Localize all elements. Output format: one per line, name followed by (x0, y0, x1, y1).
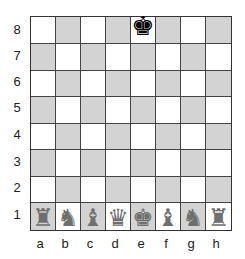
square-f1[interactable]: ♝ (156, 203, 181, 230)
square-b8[interactable] (56, 17, 81, 44)
black-king-icon[interactable]: ♚ (131, 13, 154, 39)
square-f4[interactable] (156, 124, 181, 151)
file-label-b: b (58, 236, 72, 251)
file-label-d: d (108, 236, 122, 251)
square-f5[interactable] (156, 97, 181, 124)
white-queen-icon[interactable]: ♛ (107, 206, 129, 230)
square-a6[interactable] (31, 71, 56, 98)
white-bishop-icon[interactable]: ♝ (157, 206, 179, 230)
file-label-c: c (83, 236, 97, 251)
square-c8[interactable] (81, 17, 106, 44)
square-d2[interactable] (106, 177, 131, 204)
square-g8[interactable] (181, 17, 206, 44)
square-d6[interactable] (106, 71, 131, 98)
square-g2[interactable] (181, 177, 206, 204)
square-h5[interactable] (206, 97, 231, 124)
rank-label-6: 6 (10, 74, 24, 89)
square-e6[interactable] (131, 71, 156, 98)
square-h3[interactable] (206, 150, 231, 177)
square-h8[interactable] (206, 17, 231, 44)
square-f7[interactable] (156, 44, 181, 71)
square-e4[interactable] (131, 124, 156, 151)
square-c3[interactable] (81, 150, 106, 177)
square-h7[interactable] (206, 44, 231, 71)
square-d8[interactable] (106, 17, 131, 44)
white-rook-icon[interactable]: ♜ (32, 206, 54, 230)
square-h1[interactable]: ♜ (206, 203, 231, 230)
square-f3[interactable] (156, 150, 181, 177)
square-d4[interactable] (106, 124, 131, 151)
square-b7[interactable] (56, 44, 81, 71)
rank-label-1: 1 (10, 207, 24, 222)
file-label-h: h (209, 236, 223, 251)
square-b4[interactable] (56, 124, 81, 151)
square-g6[interactable] (181, 71, 206, 98)
square-c7[interactable] (81, 44, 106, 71)
square-a1[interactable]: ♜ (31, 203, 56, 230)
white-king-icon[interactable]: ♚ (132, 206, 154, 230)
square-e8[interactable]: ♚ (131, 17, 156, 44)
square-d7[interactable] (106, 44, 131, 71)
square-e1[interactable]: ♚ (131, 203, 156, 230)
square-h2[interactable] (206, 177, 231, 204)
rank-label-4: 4 (10, 127, 24, 142)
square-a7[interactable] (31, 44, 56, 71)
rank-label-3: 3 (10, 154, 24, 169)
square-g3[interactable] (181, 150, 206, 177)
white-rook-icon[interactable]: ♜ (208, 206, 230, 230)
rank-label-2: 2 (10, 180, 24, 195)
square-b6[interactable] (56, 71, 81, 98)
square-e3[interactable] (131, 150, 156, 177)
square-b1[interactable]: ♞ (56, 203, 81, 230)
square-g5[interactable] (181, 97, 206, 124)
square-h4[interactable] (206, 124, 231, 151)
white-knight-icon[interactable]: ♞ (182, 206, 204, 230)
chess-board: ♚♜♞♝♛♚♝♞♜ (30, 16, 232, 231)
square-e5[interactable] (131, 97, 156, 124)
rank-label-7: 7 (10, 48, 24, 63)
file-label-a: a (33, 236, 47, 251)
square-d3[interactable] (106, 150, 131, 177)
square-c1[interactable]: ♝ (81, 203, 106, 230)
file-label-g: g (184, 236, 198, 251)
square-c5[interactable] (81, 97, 106, 124)
square-b5[interactable] (56, 97, 81, 124)
square-e2[interactable] (131, 177, 156, 204)
square-a2[interactable] (31, 177, 56, 204)
square-g4[interactable] (181, 124, 206, 151)
square-d5[interactable] (106, 97, 131, 124)
file-label-f: f (159, 236, 173, 251)
square-c4[interactable] (81, 124, 106, 151)
square-f6[interactable] (156, 71, 181, 98)
square-e7[interactable] (131, 44, 156, 71)
square-a5[interactable] (31, 97, 56, 124)
white-knight-icon[interactable]: ♞ (57, 206, 79, 230)
square-f2[interactable] (156, 177, 181, 204)
rank-label-8: 8 (10, 22, 24, 37)
square-d1[interactable]: ♛ (106, 203, 131, 230)
square-c2[interactable] (81, 177, 106, 204)
square-b3[interactable] (56, 150, 81, 177)
square-a4[interactable] (31, 124, 56, 151)
square-g1[interactable]: ♞ (181, 203, 206, 230)
square-a3[interactable] (31, 150, 56, 177)
file-label-e: e (134, 236, 148, 251)
rank-label-5: 5 (10, 100, 24, 115)
square-f8[interactable] (156, 17, 181, 44)
square-a8[interactable] (31, 17, 56, 44)
square-b2[interactable] (56, 177, 81, 204)
white-bishop-icon[interactable]: ♝ (82, 206, 104, 230)
square-h6[interactable] (206, 71, 231, 98)
square-g7[interactable] (181, 44, 206, 71)
square-c6[interactable] (81, 71, 106, 98)
